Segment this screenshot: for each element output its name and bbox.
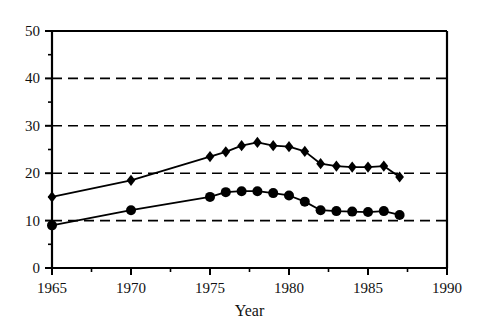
axis-frame: [52, 31, 447, 268]
x-tick-label-1990: 1990: [432, 280, 462, 296]
x-axis-title: Year: [235, 302, 265, 319]
data-point: [363, 207, 373, 217]
data-point: [269, 140, 278, 151]
y-tick-label-50: 50: [25, 23, 40, 39]
data-point: [300, 146, 309, 157]
x-tick-label-1985: 1985: [353, 280, 383, 296]
gridlines: [52, 78, 447, 220]
data-point: [221, 146, 230, 157]
data-point: [347, 207, 357, 217]
x-tick-label-1975: 1975: [195, 280, 225, 296]
y-tick-label-10: 10: [25, 213, 40, 229]
series-lower-series: [47, 186, 405, 230]
data-point: [253, 137, 262, 148]
data-point: [237, 186, 247, 196]
data-point: [205, 192, 215, 202]
data-point: [364, 161, 373, 172]
data-point: [348, 161, 357, 172]
data-point: [48, 191, 57, 202]
data-point: [379, 160, 388, 171]
data-point: [252, 186, 262, 196]
y-tick-label-0: 0: [33, 260, 41, 276]
data-point: [206, 151, 215, 162]
x-tick-label-1980: 1980: [274, 280, 304, 296]
data-point: [316, 158, 325, 169]
data-point: [332, 160, 341, 171]
data-point: [285, 141, 294, 152]
y-tick-label-40: 40: [25, 70, 40, 86]
chart-container: 01020304050196519701975198019851990Year: [0, 0, 482, 324]
data-point: [284, 190, 294, 200]
data-point: [300, 197, 310, 207]
data-point: [221, 187, 231, 197]
y-axis: 01020304050: [25, 23, 52, 276]
data-point: [331, 206, 341, 216]
line-chart: 01020304050196519701975198019851990Year: [0, 0, 482, 324]
data-point: [316, 205, 326, 215]
x-tick-label-1970: 1970: [116, 280, 146, 296]
y-tick-label-30: 30: [25, 118, 40, 134]
data-point: [379, 206, 389, 216]
y-tick-label-20: 20: [25, 165, 40, 181]
x-tick-label-1965: 1965: [37, 280, 67, 296]
data-point: [47, 220, 57, 230]
x-axis: 196519701975198019851990: [37, 268, 462, 296]
data-point: [237, 140, 246, 151]
data-point: [268, 188, 278, 198]
data-point: [126, 205, 136, 215]
data-point: [127, 175, 136, 186]
data-point: [395, 210, 405, 220]
